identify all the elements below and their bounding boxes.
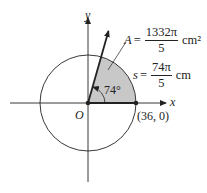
y-axis-label: y bbox=[85, 9, 90, 21]
area-unit: cm² bbox=[182, 34, 201, 47]
arc-eq: = bbox=[140, 69, 147, 82]
arc-fraction: 74π 5 bbox=[151, 61, 172, 89]
area-eq: = bbox=[134, 34, 141, 47]
arc-unit: cm bbox=[176, 69, 191, 82]
area-numerator: 1332π bbox=[145, 26, 178, 41]
arc-formula: s = 74π 5 cm bbox=[133, 61, 191, 89]
point-label: (36, 0) bbox=[137, 110, 169, 122]
origin-label: O bbox=[75, 109, 84, 121]
origin-point bbox=[86, 101, 91, 106]
area-fraction: 1332π 5 bbox=[145, 26, 178, 54]
arc-var: s bbox=[133, 69, 138, 82]
point-36-0 bbox=[134, 101, 139, 106]
angle-label: 74° bbox=[104, 84, 121, 96]
area-var: A bbox=[124, 34, 132, 47]
x-axis-label: x bbox=[170, 96, 175, 108]
area-denominator: 5 bbox=[158, 41, 164, 55]
arc-numerator: 74π bbox=[151, 61, 172, 76]
arc-denominator: 5 bbox=[158, 76, 164, 90]
area-formula: A = 1332π 5 cm² bbox=[124, 26, 201, 54]
